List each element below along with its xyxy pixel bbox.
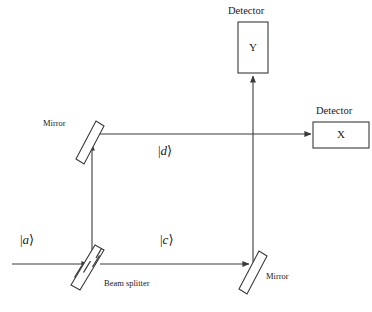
beam-splitter-label: Beam splitter: [104, 279, 150, 288]
ket-angle-c: ⟩: [168, 232, 173, 247]
beam-splitter-icon: [71, 245, 104, 290]
detector-x-caption: Detector: [316, 106, 352, 117]
ket-angle-d: ⟩: [167, 143, 172, 158]
detector-y-caption: Detector: [228, 6, 264, 17]
ket-angle-a: ⟩: [29, 232, 34, 247]
interferometer-schematic: [0, 0, 372, 312]
ket-label-c: |c⟩: [160, 233, 173, 246]
mirror-bottom-right-label: Mirror: [266, 272, 289, 281]
mirror-top-left-icon: [76, 121, 104, 164]
mirror-top-left-label: Mirror: [43, 119, 66, 128]
detector-x-label: X: [337, 129, 345, 140]
ket-label-a: |a⟩: [20, 233, 34, 246]
ket-label-d: |d⟩: [158, 144, 172, 157]
figure-canvas: Detector Y Detector X Mirror Mirror Beam…: [0, 0, 372, 312]
detector-y-label: Y: [249, 42, 257, 53]
